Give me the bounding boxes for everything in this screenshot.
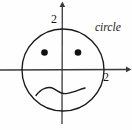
right-eye-dot xyxy=(75,49,82,56)
figure-canvas: 2 2 circle xyxy=(0,0,132,130)
x-axis-tick-label: 2 xyxy=(103,71,109,83)
sketch-graphic xyxy=(0,0,132,130)
x-axis-arrowhead xyxy=(126,67,132,73)
y-axis-arrowhead xyxy=(60,2,66,8)
y-axis-tick-label: 2 xyxy=(51,13,57,25)
axes-group xyxy=(0,2,132,125)
circle-curve-label: circle xyxy=(95,22,121,34)
mouth-wavy-curve xyxy=(36,88,85,96)
left-eye-dot xyxy=(41,49,48,56)
